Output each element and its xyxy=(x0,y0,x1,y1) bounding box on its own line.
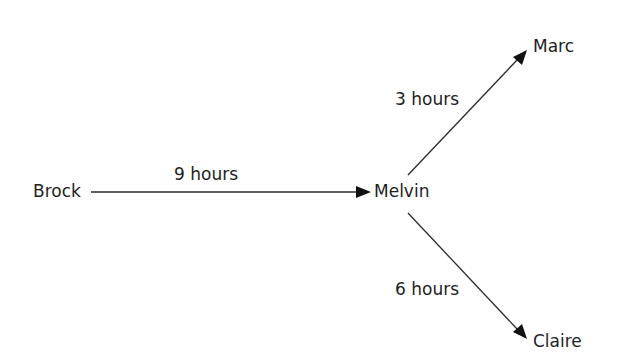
edge-label-melvin-claire: 6 hours xyxy=(395,279,459,299)
edge-label-brock-melvin: 9 hours xyxy=(174,164,238,184)
diagram-svg: 9 hours 3 hours 6 hours Brock Melvin Mar… xyxy=(0,0,621,363)
edge-melvin-marc: 3 hours xyxy=(395,50,527,175)
node-brock: Brock xyxy=(33,181,81,201)
diagram-canvas: 9 hours 3 hours 6 hours Brock Melvin Mar… xyxy=(0,0,621,363)
edge-line xyxy=(408,59,518,175)
edge-line xyxy=(408,213,518,330)
edge-melvin-claire: 6 hours xyxy=(395,213,527,339)
arrowhead-icon xyxy=(356,186,371,198)
edge-label-melvin-marc: 3 hours xyxy=(395,89,459,109)
node-claire: Claire xyxy=(533,331,582,351)
node-melvin: Melvin xyxy=(374,181,429,201)
node-marc: Marc xyxy=(533,36,574,56)
edge-brock-melvin: 9 hours xyxy=(91,164,371,198)
